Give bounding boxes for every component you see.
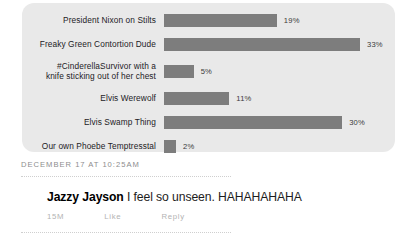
poll-bar-area: 11% <box>164 87 395 109</box>
poll-bar-area: 2% <box>164 135 395 157</box>
poll-option-row[interactable]: Our own Phoebe Temptresstal2% <box>22 135 395 157</box>
poll-bar <box>164 65 194 78</box>
comment-actions: 15MLikeReply <box>47 212 387 221</box>
comment-action-reply[interactable]: Reply <box>161 212 184 221</box>
poll-option-row[interactable]: Elvis Swamp Thing30% <box>22 111 395 133</box>
poll-option-list: President Nixon on Stilts19%Freaky Green… <box>22 9 395 146</box>
poll-option-label: Elvis Swamp Thing <box>22 117 164 128</box>
poll-option-label: #CinderellaSurvivor with a knife stickin… <box>22 61 164 82</box>
poll-bar-area: 19% <box>164 9 395 31</box>
comment-action-15m: 15M <box>47 212 64 221</box>
poll-bar-value: 19% <box>284 16 300 25</box>
poll-bar-value: 30% <box>349 118 365 127</box>
poll-option-label: Our own Phoebe Temptresstal <box>22 141 164 152</box>
poll-bar-value: 33% <box>367 40 383 49</box>
divider-top <box>21 176 231 177</box>
poll-option-label: Elvis Werewolf <box>22 93 164 104</box>
comment: Jazzy Jayson I feel so unseen. HAHAHAHAH… <box>47 189 387 221</box>
poll-bar-area: 5% <box>164 57 395 85</box>
poll-bar <box>164 92 229 105</box>
post-timestamp: DECEMBER 17 AT 10:25AM <box>21 160 140 169</box>
poll-option-label: Freaky Green Contortion Dude <box>22 39 164 50</box>
comment-body: Jazzy Jayson I feel so unseen. HAHAHAHAH… <box>47 189 387 205</box>
poll-results-card: President Nixon on Stilts19%Freaky Green… <box>22 3 395 152</box>
poll-bar-value: 5% <box>201 67 212 76</box>
poll-bar <box>164 14 277 27</box>
poll-bar-value: 2% <box>183 142 194 151</box>
poll-bar-area: 30% <box>164 111 395 133</box>
comment-author[interactable]: Jazzy Jayson <box>47 190 124 204</box>
poll-bar <box>164 38 360 51</box>
poll-bar-value: 11% <box>236 94 251 103</box>
poll-option-row[interactable]: #CinderellaSurvivor with a knife stickin… <box>22 57 395 85</box>
poll-option-label: President Nixon on Stilts <box>22 15 164 26</box>
poll-bar <box>164 140 176 153</box>
poll-bar-area: 33% <box>164 33 395 55</box>
poll-bar <box>164 116 342 129</box>
comment-text: I feel so unseen. HAHAHAHAHA <box>124 190 302 204</box>
poll-option-row[interactable]: Elvis Werewolf11% <box>22 87 395 109</box>
poll-option-row[interactable]: Freaky Green Contortion Dude33% <box>22 33 395 55</box>
comment-action-like[interactable]: Like <box>104 212 121 221</box>
divider-bottom <box>21 232 231 233</box>
poll-option-row[interactable]: President Nixon on Stilts19% <box>22 9 395 31</box>
